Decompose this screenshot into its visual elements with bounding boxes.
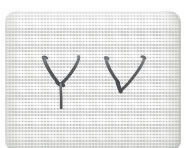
letter-v-mark [105, 57, 145, 92]
letter-y-mark [43, 57, 79, 108]
ink-marks-group [5, 11, 181, 148]
photo-canvas [0, 0, 188, 148]
fabric-swatch [5, 11, 181, 148]
